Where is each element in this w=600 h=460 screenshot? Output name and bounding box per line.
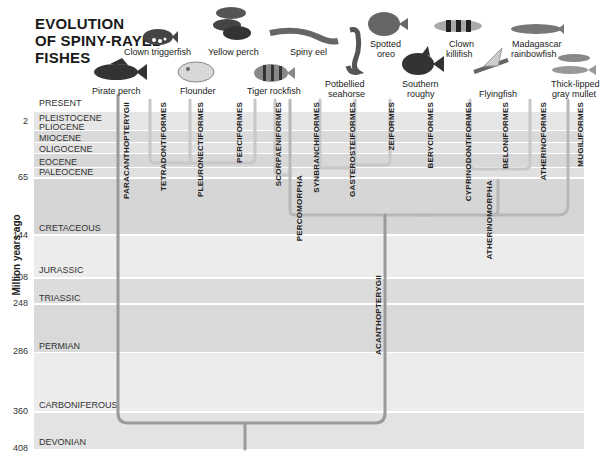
- spiny-eel-icon: [268, 27, 340, 47]
- flounder-label: Flounder: [180, 86, 216, 96]
- clown-killifish-label-2: killifish: [446, 49, 473, 59]
- southern-roughy-icon: [398, 46, 444, 78]
- taxon-tetradontiformes: TETRADONTIFORMES: [159, 102, 168, 191]
- spotted-oreo-label-2: oreo: [377, 49, 395, 59]
- taxon-cyprinodontiformes: CYPRINODONTIFORMES: [464, 102, 473, 201]
- seahorse-label-2: seahorse: [328, 89, 365, 99]
- taxon-beryciformes: BERYCIFORMES: [426, 102, 435, 169]
- clown-triggerfish-label: Clown triggerfish: [124, 47, 191, 57]
- spotted-oreo-icon: [364, 10, 408, 38]
- taxon-synbranchiformes: SYNBRANCHIFORMES: [312, 102, 321, 193]
- taxon-paracanthopterygii: PARACANTHOPTERYGII: [122, 102, 131, 199]
- taxon-zeiformes: ZEIFORMES: [387, 102, 396, 150]
- taxon-atherinomorpha: ATHERINOMORPHA: [485, 180, 494, 260]
- taxon-perciformes: PERCIFORMES: [235, 102, 244, 163]
- pirate-perch-icon: [90, 58, 148, 84]
- tiger-rockfish-icon: [249, 62, 295, 84]
- taxon-pleuronectiformes: PLEURONECTIFORMES: [196, 102, 205, 197]
- taxon-atheriniformes: ATHERINOFORMES: [539, 102, 548, 180]
- clown-triggerfish-icon: [140, 28, 178, 46]
- gray-mullet-label-1: Thick-lipped: [551, 79, 600, 89]
- madagascar-rainbowfish-icon: [508, 22, 564, 36]
- southern-roughy-label-1: Southern: [402, 79, 439, 89]
- tiger-rockfish-label: Tiger rockfish: [247, 86, 301, 96]
- taxon-acanthopterygii: ACANTHOPTERYGII: [374, 275, 383, 355]
- seahorse-icon: [340, 26, 366, 76]
- rainbowfish-label-1: Madagascar: [512, 39, 562, 49]
- clown-killifish-label-1: Clown: [449, 39, 474, 49]
- gray-mullet-label-2: gray mullet: [552, 89, 596, 99]
- taxon-scorpaeniformes: SCORPAENIFORMES: [274, 102, 283, 186]
- taxon-beloniformes: BELONIFORMES: [501, 102, 510, 169]
- taxon-mugiliformes: MUGILIFORMES: [576, 102, 585, 167]
- taxon-percomorpha: PERCOMORPHA: [295, 175, 304, 241]
- clown-killifish-icon: [432, 17, 488, 35]
- flyingfish-icon: [472, 46, 512, 78]
- flounder-icon: [174, 60, 218, 84]
- spotted-oreo-label-1: Spotted: [370, 39, 401, 49]
- flyingfish-label: Flyingfish: [479, 89, 517, 99]
- yellow-perch-icon: [205, 3, 260, 47]
- taxon-gasterosteiformes: GASTEROSTEIFORMES: [348, 102, 357, 197]
- seahorse-label-1: Potbellied: [325, 79, 365, 89]
- yellow-perch-label: Yellow perch: [208, 47, 259, 57]
- pirate-perch-label: Pirate perch: [92, 86, 141, 96]
- gray-mullet-icon: [548, 50, 598, 80]
- spiny-eel-label: Spiny eel: [290, 47, 327, 57]
- southern-roughy-label-2: roughy: [407, 89, 435, 99]
